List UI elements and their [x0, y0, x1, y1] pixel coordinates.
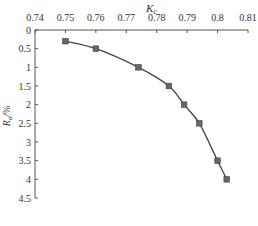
y-tick-label: 3.5 — [19, 155, 32, 166]
x-tick-label: 0.8 — [211, 12, 224, 23]
data-point-marker — [136, 65, 142, 71]
x-tick-label: 0.77 — [118, 12, 136, 23]
data-point-marker — [63, 38, 69, 44]
data-point-marker — [224, 177, 230, 183]
y-tick-label: 4.5 — [19, 193, 32, 204]
data-point-marker — [181, 102, 187, 108]
x-axis: 0.740.750.760.770.780.790.80.81 — [26, 12, 257, 33]
data-point-marker — [93, 46, 99, 52]
y-tick-label: 0 — [26, 25, 31, 36]
y-tick-label: 4 — [26, 174, 31, 185]
y-tick-label: 2 — [26, 99, 31, 110]
x-tick-label: 0.79 — [178, 12, 196, 23]
x-tick-label: 0.75 — [57, 12, 75, 23]
data-point-marker — [166, 83, 172, 89]
x-tick-label: 0.76 — [87, 12, 105, 23]
y-axis-title: Ra/% — [1, 106, 14, 128]
x-tick-label: 0.78 — [148, 12, 166, 23]
x-tick-label: 0.74 — [26, 12, 44, 23]
y-tick-label: 1 — [26, 62, 31, 73]
chart: Kc Ra/% 0.740.750.760.770.780.790.80.81 … — [0, 0, 258, 226]
y-tick-label: 2.5 — [19, 118, 32, 129]
y-axis: 00.511.522.533.544.5 — [19, 25, 39, 204]
y-tick-label: 3 — [26, 137, 31, 148]
y-tick-label: 1.5 — [19, 81, 32, 92]
series-line — [65, 41, 226, 179]
x-tick-label: 0.81 — [239, 12, 257, 23]
data-point-marker — [215, 158, 221, 164]
y-tick-label: 0.5 — [19, 43, 32, 54]
data-series — [63, 38, 230, 182]
y-axis-label: Ra/% — [1, 106, 14, 128]
data-point-marker — [197, 121, 203, 127]
